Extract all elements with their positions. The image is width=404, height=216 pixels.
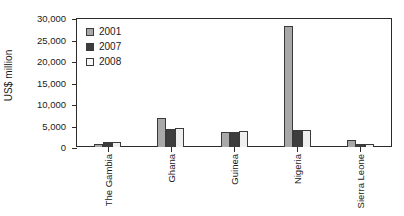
y-axis-tick-label: 30,000	[37, 13, 66, 24]
x-axis-category-labels: The GambiaGhanaGuineaNigeriaSierra Leone	[76, 152, 392, 214]
y-axis-tick-label: 25,000	[37, 34, 66, 45]
x-axis-category-label: Sierra Leone	[355, 154, 366, 208]
x-axis-label-cell: Nigeria	[266, 152, 329, 214]
y-axis-title-text: US$ million	[4, 49, 15, 101]
plot-area	[76, 18, 392, 147]
x-axis-category-label: Ghana	[165, 154, 176, 183]
x-axis-label-cell: Guinea	[202, 152, 265, 214]
y-axis-tick-mark	[72, 41, 77, 42]
y-axis-tick-mark	[72, 127, 77, 128]
y-axis-title: US$ million	[0, 0, 18, 150]
x-axis-label-cell: Ghana	[139, 152, 202, 214]
legend-swatch-icon	[86, 58, 94, 66]
chart-legend: 200120072008	[86, 26, 121, 68]
bar-chart: US$ million 30,00025,00020,00015,00010,0…	[0, 0, 404, 216]
y-axis-tick-mark	[72, 105, 77, 106]
y-axis-tick-labels: 30,00025,00020,00015,00010,0005,0000	[18, 12, 70, 153]
legend-label: 2001	[99, 27, 121, 37]
y-axis-tick-mark	[72, 84, 77, 85]
y-axis-tick-label: 0	[61, 142, 66, 153]
legend-swatch-icon	[86, 43, 94, 51]
legend-entry: 2008	[86, 56, 121, 68]
legend-label: 2008	[99, 57, 121, 67]
legend-label: 2007	[99, 42, 121, 52]
x-axis-category-label: The Gambia	[102, 154, 113, 206]
x-axis-label-cell: Sierra Leone	[329, 152, 392, 214]
legend-entry: 2007	[86, 41, 121, 53]
x-axis-category-label: Nigeria	[292, 154, 303, 184]
legend-swatch-icon	[86, 28, 94, 36]
y-axis-tick-label: 5,000	[42, 120, 66, 131]
x-axis-label-cell: The Gambia	[76, 152, 139, 214]
y-axis-tick-label: 20,000	[37, 56, 66, 67]
y-axis-tick-label: 10,000	[37, 99, 66, 110]
x-axis-category-label: Guinea	[229, 154, 240, 185]
y-axis-tick-mark	[72, 62, 77, 63]
legend-entry: 2001	[86, 26, 121, 38]
y-axis-tick-mark	[72, 19, 77, 20]
y-axis-tick-label: 15,000	[37, 77, 66, 88]
